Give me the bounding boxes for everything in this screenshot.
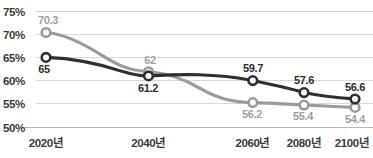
- dark-data-label-2040: 61.2: [138, 82, 158, 94]
- x-tick-label-2020: 2020년: [29, 136, 64, 149]
- x-tick-label-2100: 2100년: [335, 136, 370, 149]
- y-tick-label-55: 55%: [3, 98, 25, 110]
- x-tick-label-2080: 2080년: [287, 136, 322, 149]
- gray-data-label-2080: 55.4: [293, 110, 314, 122]
- dark-series-marker-2080: [300, 88, 309, 97]
- gray-data-label-2100: 54.4: [345, 113, 366, 125]
- y-tick-label-60: 60%: [3, 75, 25, 87]
- y-tick-label-65: 65%: [3, 52, 25, 64]
- y-tick-label-50: 50%: [3, 122, 25, 134]
- line-chart: 75% 70% 65% 60% 55% 50% 70.3 62 56.: [0, 0, 373, 158]
- dark-data-label-2080: 57.6: [294, 74, 314, 86]
- dark-data-label-2100: 56.6: [345, 81, 365, 93]
- gray-series-marker-2020: [42, 28, 51, 37]
- gray-data-label-2040: 62: [144, 54, 156, 66]
- gray-data-label-2060: 56.2: [242, 108, 262, 120]
- y-tick-label-70: 70%: [3, 29, 25, 41]
- x-tick-label-2040: 2040년: [131, 136, 166, 149]
- y-tick-label-75: 75%: [3, 6, 25, 18]
- dark-data-label-2060: 59.7: [243, 62, 263, 74]
- dark-series-marker-2020: [42, 53, 51, 62]
- gray-series-marker-2060: [249, 98, 258, 107]
- dark-data-label-2020: 65: [38, 63, 50, 75]
- gray-series-marker-2080: [300, 101, 309, 110]
- dark-series-marker-2060: [249, 76, 258, 85]
- gray-data-label-2020: 70.3: [38, 14, 58, 26]
- dark-series-marker-2100: [351, 95, 360, 104]
- dark-series-marker-2040: [144, 72, 153, 81]
- x-tick-label-2060: 2060년: [236, 136, 271, 149]
- chart-canvas: 75% 70% 65% 60% 55% 50% 70.3 62 56.: [0, 0, 373, 158]
